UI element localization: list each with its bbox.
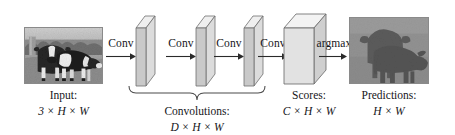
conv-2-arrow-icon — [166, 52, 196, 61]
input-caption: Input: 3 × H × W — [24, 88, 103, 118]
predictions-image — [349, 17, 429, 84]
predictions-mask-graphic — [350, 18, 428, 83]
conv-3-arrow-icon — [214, 52, 244, 61]
conv-feature-slab-1 — [136, 16, 166, 88]
convolutions-caption-title: Convolutions: — [127, 104, 267, 119]
conv-1-arrow-icon — [106, 52, 136, 61]
predictions-caption-dims: H × W — [339, 104, 439, 119]
input-caption-title: Input: — [24, 88, 103, 103]
conv-1-label: Conv — [104, 37, 138, 49]
conv-2-label: Conv — [164, 37, 198, 49]
argmax-arrow-icon — [319, 52, 347, 61]
scores-volume — [284, 14, 334, 88]
conv-3-label: Conv — [212, 37, 246, 49]
predictions-caption: Predictions: H × W — [339, 88, 439, 118]
convolutions-caption: Convolutions: D × H × W — [127, 104, 267, 134]
predictions-caption-title: Predictions: — [339, 88, 439, 103]
input-image — [24, 27, 103, 84]
convolutions-underbrace — [128, 86, 266, 102]
input-photo-graphic — [25, 28, 102, 83]
segmentation-pipeline-figure: Input: 3 × H × W Conv Conv — [0, 0, 455, 135]
input-caption-dims: 3 × H × W — [24, 104, 103, 119]
convolutions-caption-dims: D × H × W — [127, 120, 267, 135]
